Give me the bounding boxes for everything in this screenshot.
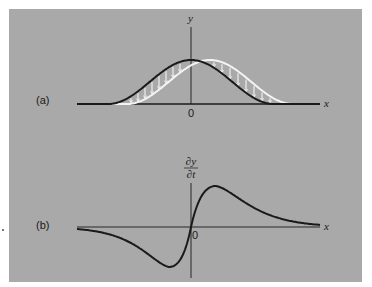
panel-b-x-label: x [323, 220, 329, 232]
panel-b-y-label-numerator: ∂y [186, 155, 196, 167]
derivative-curve [77, 186, 320, 267]
wave-diagram: (a) y x 0 (b) ∂y ∂t x 0 [0, 0, 372, 287]
shifted-pulse-curve [77, 60, 320, 104]
panel-b-origin-label: 0 [192, 229, 198, 241]
panel-a-x-label: x [323, 97, 329, 109]
initial-pulse-curve [77, 60, 320, 104]
panel-b-label: (b) [36, 219, 49, 231]
panel-b-y-label-denominator: ∂t [187, 168, 196, 180]
panel-a: (a) y x 0 [36, 12, 329, 119]
panel-a-y-label: y [187, 12, 193, 24]
panel-b: (b) ∂y ∂t x 0 [36, 155, 329, 278]
panel-a-label: (a) [36, 94, 49, 106]
panel-a-origin-label: 0 [188, 107, 194, 119]
